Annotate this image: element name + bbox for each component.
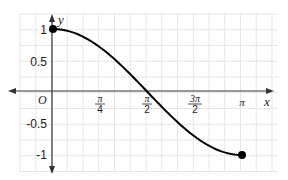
svg-text:2: 2 — [144, 104, 150, 115]
y-axis-label: y — [56, 12, 64, 27]
y-axis-up-arrow-icon — [49, 14, 55, 22]
x-tick-label-pi: π — [239, 96, 245, 108]
x-axis-left-arrow-icon — [8, 88, 16, 94]
y-tick-label-neg1: -1 — [36, 148, 47, 162]
origin-label: O — [38, 93, 47, 107]
y-axis-down-arrow-icon — [49, 166, 55, 174]
start-point — [49, 25, 57, 33]
x-axis-label: x — [263, 94, 270, 109]
svg-text:3π: 3π — [189, 93, 201, 104]
y-tick-label-1: 1 — [40, 23, 47, 37]
x-tick-label-pi-over-4: π 4 — [95, 93, 105, 115]
x-tick-label-3pi-over-2: 3π 2 — [188, 93, 202, 115]
y-tick-label-neg0.5: -0.5 — [26, 117, 47, 131]
cosine-curve — [53, 29, 242, 155]
svg-text:π: π — [97, 93, 103, 104]
y-axis — [49, 14, 55, 174]
svg-text:4: 4 — [97, 104, 103, 115]
end-point — [238, 151, 246, 159]
y-tick-label-0.5: 0.5 — [30, 55, 47, 69]
svg-text:2: 2 — [192, 104, 198, 115]
cosine-graph: y x O 1 0.5 -0.5 -1 π 4 π 2 3π 2 π — [0, 0, 288, 180]
